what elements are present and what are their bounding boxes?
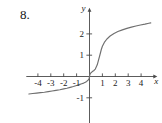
figure-container: 8. -4-3-2-11234-112 xy (0, 0, 162, 123)
y-axis-arrow (88, 8, 92, 12)
x-tick-label: 4 (139, 78, 144, 88)
x-tick-label: -4 (34, 78, 42, 88)
x-axis-label: x (153, 76, 158, 86)
axes-group (26, 8, 157, 123)
y-axis-label: y (81, 3, 86, 13)
x-tick-label: 3 (126, 78, 131, 88)
graph-canvas: -4-3-2-11234-112 xy (0, 0, 162, 123)
x-tick-label: 1 (100, 78, 105, 88)
x-tick-label: -2 (60, 78, 68, 88)
y-tick-label: -1 (76, 93, 84, 103)
tick-labels-group: -4-3-2-11234-112 (34, 29, 144, 103)
x-tick-label: 2 (113, 78, 118, 88)
x-tick-label: -3 (47, 78, 55, 88)
y-tick-label: 2 (79, 29, 84, 39)
axis-labels-group: xy (81, 3, 159, 85)
y-tick-label: 1 (79, 50, 84, 60)
x-tick-label: -1 (73, 78, 81, 88)
